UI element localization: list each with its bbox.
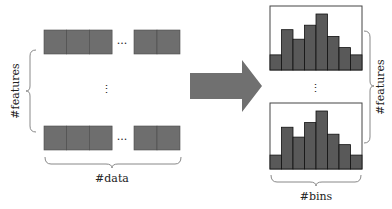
- bins-label: #bins: [300, 190, 333, 203]
- features-label-right: #features: [374, 59, 387, 115]
- histogram-bar: [316, 14, 328, 70]
- data-cell: [134, 30, 157, 54]
- histogram-bar: [351, 155, 363, 169]
- data-label: #data: [95, 172, 129, 185]
- feature-histogram: [270, 103, 362, 169]
- data-cell: [157, 126, 180, 150]
- data-row: ...: [44, 30, 180, 54]
- row-ellipsis: ...: [117, 130, 128, 143]
- histogram-bar: [282, 127, 294, 169]
- data-cell: [89, 30, 112, 54]
- histogram-bar: [270, 155, 282, 169]
- data-row: ...: [44, 126, 180, 150]
- data-cell: [67, 30, 90, 54]
- data-cell: [67, 126, 90, 150]
- feature-histogram: [270, 6, 362, 70]
- row-ellipsis: ...: [117, 34, 128, 47]
- histogram-bar: [270, 55, 282, 70]
- histogram-bar: [305, 123, 317, 169]
- features-label-left: #features: [9, 63, 22, 119]
- data-matrix: ......: [44, 30, 180, 150]
- column-ellipsis-right: ⋮: [310, 82, 321, 95]
- histogram-bar: [339, 145, 351, 169]
- histogram-bar: [351, 55, 363, 70]
- diagram-canvas: ...... ⋮ #features #data ⋮ #features #bi…: [0, 0, 392, 209]
- column-ellipsis-left: ⋮: [101, 83, 112, 96]
- data-cell: [157, 30, 180, 54]
- histogram-bar: [339, 48, 351, 70]
- histogram-bar: [316, 111, 328, 169]
- data-cell: [44, 126, 67, 150]
- transform-arrow-icon: [190, 60, 262, 112]
- data-cell: [44, 30, 67, 54]
- data-cell: [89, 126, 112, 150]
- histogram-bar: [328, 134, 340, 169]
- histogram-bar: [305, 25, 317, 70]
- data-brace: [45, 157, 181, 168]
- histogram-bar: [282, 30, 294, 70]
- features-brace-left: [26, 50, 36, 132]
- bins-brace: [271, 175, 361, 186]
- histogram-bar: [293, 137, 305, 169]
- features-brace-right: [364, 31, 374, 143]
- histogram-bar: [293, 39, 305, 70]
- histogram-bar: [328, 36, 340, 70]
- data-cell: [134, 126, 157, 150]
